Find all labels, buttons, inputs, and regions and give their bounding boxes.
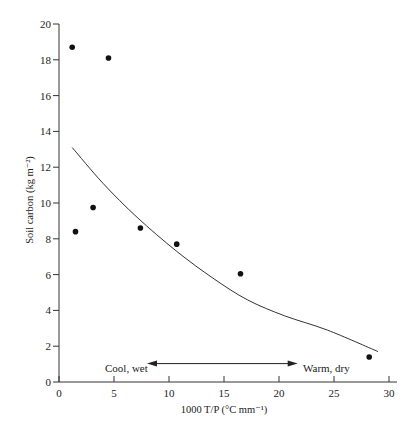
x-tick-label: 25 (329, 387, 341, 399)
arrowhead-right (288, 361, 298, 367)
data-point-4 (138, 225, 144, 231)
fit-curve (72, 148, 378, 352)
data-point-1 (106, 55, 112, 61)
y-tick-label: 10 (40, 197, 52, 209)
data-point-0 (69, 44, 75, 50)
x-tick-label: 0 (56, 387, 62, 399)
annotation-warm-dry: Warm, dry (303, 362, 350, 374)
data-point-6 (238, 271, 244, 277)
y-tick-label: 8 (46, 233, 52, 245)
y-tick-label: 20 (40, 18, 52, 30)
y-tick-label: 6 (46, 269, 52, 281)
data-point-5 (174, 241, 180, 247)
data-points (69, 44, 372, 359)
data-point-7 (366, 354, 372, 360)
axes (59, 24, 397, 382)
y-tick-label: 0 (46, 376, 52, 388)
x-ticks: 051015202530 (56, 376, 395, 399)
x-axis-label: 1000 T/P (°C mm⁻¹) (181, 404, 268, 416)
y-axis-label: Soil carbon (kg m⁻²) (24, 156, 36, 244)
x-tick-label: 5 (111, 387, 117, 399)
data-point-2 (73, 229, 79, 235)
y-tick-label: 14 (40, 125, 52, 137)
y-tick-label: 12 (40, 161, 51, 173)
x-tick-label: 10 (164, 387, 176, 399)
annotation-cool-wet: Cool, wet (105, 362, 148, 374)
climate-gradient-arrow (147, 361, 298, 367)
y-tick-label: 2 (46, 340, 52, 352)
y-ticks: 02468101214161820 (40, 18, 59, 388)
data-point-3 (90, 205, 96, 211)
x-tick-label: 30 (384, 387, 396, 399)
x-tick-label: 20 (274, 387, 286, 399)
y-tick-label: 16 (40, 90, 52, 102)
y-tick-label: 18 (40, 54, 52, 66)
y-tick-label: 4 (46, 304, 52, 316)
chart: 02468101214161820 051015202530 Cool, wet… (0, 0, 420, 440)
x-tick-label: 15 (219, 387, 231, 399)
arrowhead-left (147, 361, 157, 367)
